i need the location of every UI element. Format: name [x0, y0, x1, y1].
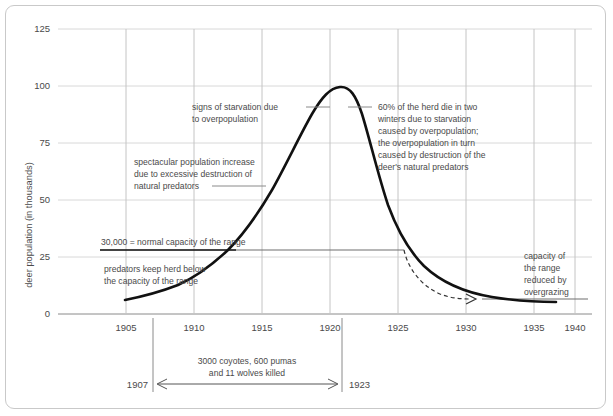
y-tick-labels: 125 100 75 50 25 0 [34, 23, 50, 319]
y-tick-label-100: 100 [34, 80, 50, 91]
x-tick-label-1905: 1905 [115, 322, 136, 333]
annotation-capacity-reduced-line-1: capacity of [524, 251, 566, 261]
annotation-capacity-reduced-overgrazing: capacity of the range reduced by overgra… [524, 251, 569, 297]
annotation-signs-of-starvation-line-2: to overpopulation [192, 114, 258, 124]
chart-stage: 125 100 75 50 25 0 1905 1910 1915 1920 1… [0, 0, 613, 416]
annotation-spectacular-increase-line-1: spectacular population increase [134, 157, 255, 167]
x-tick-label-1920: 1920 [319, 322, 340, 333]
annotation-sixty-percent-line-5: caused by destruction of the [378, 150, 486, 160]
annotation-normal-capacity-label: 30,000 = normal capacity of the range [101, 237, 246, 247]
y-gridlines [58, 29, 592, 257]
deer-population-chart: 125 100 75 50 25 0 1905 1910 1915 1920 1… [0, 0, 613, 416]
y-axis-title: deer population (in thousands) [24, 162, 34, 288]
annotation-predators-keep-herd: predators keep herd below the capacity o… [104, 264, 207, 286]
span-marker-end-label: 1923 [349, 379, 370, 390]
x-tick-label-1910: 1910 [183, 322, 204, 333]
annotation-sixty-percent-line-2: winters due to starvation [377, 114, 471, 124]
annotation-spectacular-increase-line-3: natural predators [134, 181, 199, 191]
x-tick-label-1940: 1940 [564, 322, 585, 333]
x-tick-label-1935: 1935 [523, 322, 544, 333]
y-tick-label-75: 75 [39, 137, 50, 148]
annotation-spectacular-increase: spectacular population increase due to e… [134, 157, 266, 191]
x-tick-label-1915: 1915 [251, 322, 272, 333]
span-marker-start-label: 1907 [127, 379, 148, 390]
annotation-signs-of-starvation-line-1: signs of starvation due [192, 102, 278, 112]
y-tick-label-0: 0 [45, 308, 50, 319]
span-marker-text-line-2: and 11 wolves killed [209, 368, 285, 378]
y-tick-label-125: 125 [34, 23, 50, 34]
annotation-spectacular-increase-line-2: due to excessive destruction of [134, 169, 253, 179]
x-tick-label-1930: 1930 [455, 322, 476, 333]
annotation-capacity-reduced-line-3: reduced by [524, 275, 567, 285]
x-tick-labels: 1905 1910 1915 1920 1925 1930 1935 1940 [115, 322, 585, 333]
annotation-sixty-percent-line-1: 60% of the herd die in two [378, 102, 478, 112]
y-tick-label-50: 50 [39, 194, 50, 205]
annotation-predators-keep-herd-line-1: predators keep herd below [104, 264, 207, 274]
annotation-capacity-reduced-line-4: overgrazing [524, 287, 569, 297]
span-marker-text-line-1: 3000 coyotes, 600 pumas [198, 356, 296, 366]
x-tick-label-1925: 1925 [387, 322, 408, 333]
y-tick-label-25: 25 [39, 251, 50, 262]
annotation-sixty-percent-line-4: the overpopulation in turn [378, 138, 475, 148]
annotation-capacity-reduced-line-2: the range [524, 263, 561, 273]
annotation-sixty-percent-line-3: caused by overpopulation; [378, 126, 478, 136]
annotation-predators-keep-herd-line-2: the capacity of the range [104, 276, 198, 286]
annotation-sixty-percent-line-6: deer's natural predators [378, 162, 469, 172]
